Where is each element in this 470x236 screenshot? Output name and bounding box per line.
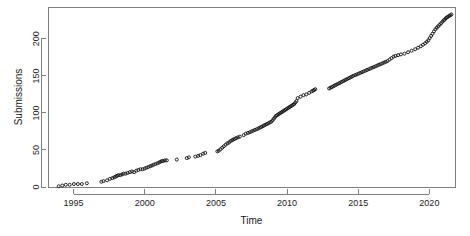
y-tick-label: 100	[31, 105, 41, 120]
y-tick-label: 150	[31, 68, 41, 83]
scatter-plot-canvas: 199520002005201020152020 050100150200 Ti…	[0, 0, 470, 236]
x-tick-label: 2000	[135, 198, 155, 208]
x-tick-label: 2010	[277, 198, 297, 208]
chart-figure: 199520002005201020152020 050100150200 Ti…	[0, 0, 470, 236]
y-tick-label: 0	[31, 184, 41, 189]
y-tick-label: 200	[31, 31, 41, 46]
x-tick-label: 1995	[64, 198, 84, 208]
y-tick-label: 50	[31, 145, 41, 155]
x-tick-label: 2015	[348, 198, 368, 208]
y-axis-title: Submissions	[13, 69, 24, 126]
x-tick-label: 2020	[419, 198, 439, 208]
x-tick-label: 2005	[206, 198, 226, 208]
x-axis-title: Time	[241, 215, 263, 226]
